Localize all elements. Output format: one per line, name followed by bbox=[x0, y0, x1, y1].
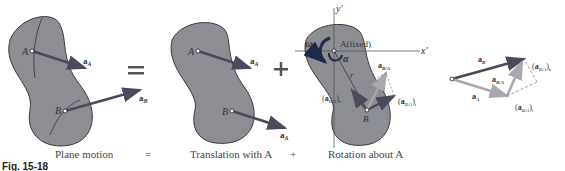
plus-sign bbox=[274, 62, 288, 76]
svg-text:aA: aA bbox=[280, 130, 289, 141]
acceleration-vector-diagram: aB aB/A aA (aB/A)n (aB/A)t bbox=[450, 55, 552, 113]
translation-panel: A B aA aA bbox=[171, 23, 288, 144]
caption-plus: + bbox=[290, 148, 296, 160]
figure-label: Fig. 15-18 bbox=[2, 161, 48, 171]
rigid-body bbox=[9, 17, 93, 146]
caption-equals: = bbox=[145, 148, 151, 160]
vector-a-B-sum bbox=[452, 59, 524, 79]
svg-text:A: A bbox=[187, 46, 195, 57]
svg-text:(aB/A)t: (aB/A)t bbox=[398, 97, 417, 107]
svg-text:B: B bbox=[222, 106, 228, 117]
svg-text:aA: aA bbox=[472, 92, 480, 102]
svg-text:(aB/A)n: (aB/A)n bbox=[532, 62, 552, 72]
caption-rotation: Rotation about A bbox=[328, 148, 403, 160]
equals-sign bbox=[128, 66, 144, 75]
svg-text:α: α bbox=[343, 53, 349, 64]
plane-motion-diagram: A B aA aB A B aA aA y′ x′ ω α A(fixed) bbox=[0, 0, 565, 171]
svg-text:x′: x′ bbox=[420, 45, 428, 56]
svg-text:B: B bbox=[55, 105, 61, 116]
svg-text:aB: aB bbox=[139, 93, 148, 104]
svg-text:A(fixed): A(fixed) bbox=[340, 39, 371, 49]
caption-translation: Translation with A bbox=[190, 148, 272, 160]
svg-text:aA: aA bbox=[83, 56, 92, 67]
svg-text:aB: aB bbox=[478, 55, 486, 65]
svg-text:aB/A: aB/A bbox=[378, 61, 391, 71]
svg-text:aA: aA bbox=[250, 56, 259, 67]
vector-a-BA-sum bbox=[507, 62, 522, 96]
rigid-body-translated bbox=[171, 23, 254, 144]
svg-text:aB/A: aB/A bbox=[492, 75, 505, 85]
caption-plane-motion: Plane motion bbox=[55, 148, 113, 160]
rotation-panel: y′ x′ ω α A(fixed) r B aB/A (aB/A)n (aB/… bbox=[295, 3, 428, 148]
plane-motion-panel: A B aA aB bbox=[9, 17, 148, 146]
svg-text:y′: y′ bbox=[335, 3, 343, 14]
svg-text:ω: ω bbox=[305, 37, 313, 49]
svg-text:B: B bbox=[363, 114, 369, 124]
point-b bbox=[63, 109, 67, 113]
point-a bbox=[30, 49, 34, 53]
svg-text:A: A bbox=[21, 46, 29, 57]
svg-text:r: r bbox=[350, 70, 354, 80]
svg-text:(aB/A)t: (aB/A)t bbox=[515, 103, 534, 113]
